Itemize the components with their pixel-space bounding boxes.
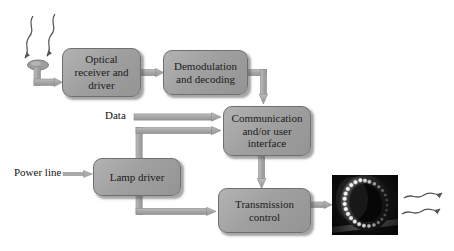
incoming-light-signal (25, 14, 55, 58)
node-transmission-control-label-line1: Transmission (232, 198, 297, 211)
node-transmission-control-label-line2: control (232, 211, 297, 224)
vlc-block-diagram: Opticalreceiver anddriver Demodulationan… (0, 0, 454, 251)
node-demodulation-label-line1: Demodulation (171, 60, 240, 73)
node-optical-receiver[interactable]: Opticalreceiver anddriver (62, 48, 141, 97)
node-demodulation-label-line2: and decoding (171, 73, 240, 86)
node-optical-receiver-label: Opticalreceiver anddriver (68, 53, 134, 91)
node-demodulation[interactable]: Demodulationand decoding (163, 50, 248, 95)
node-lamp-driver-label-line1: Lamp driver (107, 171, 168, 184)
node-communication-label-line3: interface (229, 137, 306, 150)
node-optical-receiver-label-line1: Optical (71, 53, 131, 66)
edge-data-to-communication (134, 113, 221, 121)
node-transmission-control[interactable]: Transmissioncontrol (218, 188, 311, 233)
node-optical-receiver-label-line3: driver (71, 79, 131, 92)
node-transmission-control-label: Transmissioncontrol (229, 198, 300, 224)
edge-optical-receiver-to-demodulation (141, 68, 164, 76)
node-optical-receiver-label-line2: receiver and (71, 66, 131, 79)
node-communication-label-line2: and/or user (229, 125, 306, 138)
edge-power-line-to-lamp-driver (63, 170, 93, 177)
edge-photodetector-to-optical-receiver (34, 67, 63, 87)
node-communication-label: Communicationand/or userinterface (226, 112, 309, 150)
led-array-photo-content (332, 175, 398, 235)
node-lamp-driver-label: Lamp driver (104, 171, 171, 184)
edge-label-data: Data (105, 109, 126, 121)
edge-communication-to-transmission-control (257, 155, 266, 189)
node-communication-label-line1: Communication (229, 112, 306, 125)
node-communication[interactable]: Communicationand/or userinterface (223, 106, 311, 156)
node-lamp-driver[interactable]: Lamp driver (93, 158, 181, 196)
edge-label-power-line: Power line (14, 166, 61, 178)
edge-transmission-control-to-led-array (311, 201, 332, 209)
edge-demodulation-to-communication (246, 70, 268, 105)
edge-lamp-driver-to-transmission-control (136, 196, 216, 216)
led-array-photo (332, 175, 398, 235)
edge-lamp-driver-to-communication (136, 126, 221, 158)
node-demodulation-label: Demodulationand decoding (168, 60, 243, 86)
outgoing-light-signal (402, 193, 442, 214)
